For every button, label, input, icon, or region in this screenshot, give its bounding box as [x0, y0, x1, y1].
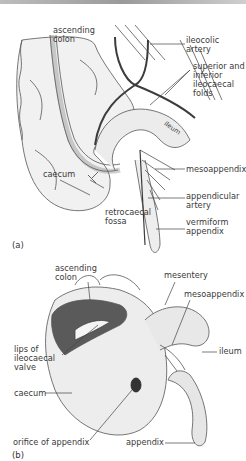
label-caecum-a: caecum: [43, 170, 75, 179]
panel-a-letter: (a): [12, 240, 24, 250]
label-orifice-of-appendix: orifice of appendix: [13, 438, 89, 447]
label-caecum-b: caecum: [14, 389, 46, 398]
label-ileocolic-artery: ileocolic artery: [186, 36, 219, 54]
label-ascending-colon-a: ascending colon: [53, 26, 95, 44]
label-appendix: appendix: [126, 438, 164, 447]
label-ileum-b: ileum: [219, 347, 242, 356]
label-mesentery: mesentery: [164, 271, 208, 280]
label-mesoappendix-b: mesoappendix: [184, 290, 244, 299]
label-ileocaecal-folds: superior and inferior ileocaecal folds: [193, 62, 245, 98]
label-mesoappendix-a: mesoappendix: [186, 165, 246, 174]
label-ascending-colon-b: ascending colon: [55, 264, 97, 282]
label-retrocaecal-fossa: retrocaecal fossa: [105, 208, 151, 226]
panel-b-drawing: [46, 275, 209, 446]
label-appendicular-artery: appendicular artery: [186, 192, 239, 210]
label-lips-of-ileocaecal-valve: lips of ileocaecal valve: [14, 345, 55, 372]
label-vermiform-appendix: vermiform appendix: [186, 218, 228, 236]
panel-b-letter: (b): [12, 450, 24, 460]
